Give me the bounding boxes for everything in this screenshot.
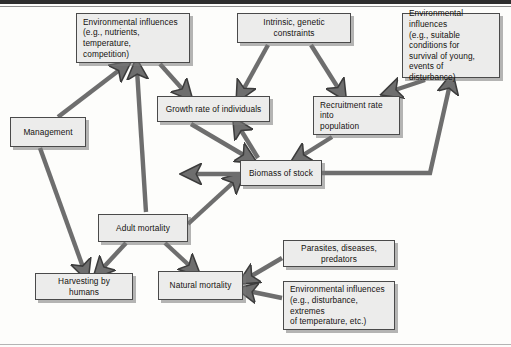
node-label: Natural mortality: [165, 280, 236, 291]
node-label: Intrinsic, genetic constraints: [244, 17, 344, 38]
node-biomass-of-stock[interactable]: Biomass of stock: [240, 160, 322, 186]
node-label: Adult mortality: [105, 223, 181, 234]
edge-adult-mortality-to-environmental-influences: [137, 70, 146, 212]
edge-recruitment-to-biomass: [300, 137, 332, 157]
fish-stock-flow-diagram: Environmental influences (e.g., nutrient…: [0, 0, 511, 347]
node-label: Environmental influences (e.g., disturba…: [290, 284, 388, 326]
node-environmental-influences-natural-mortality[interactable]: Environmental influences (e.g., disturba…: [283, 281, 395, 330]
edge-parasites-to-natural-mortality: [248, 258, 282, 278]
node-label: Harvesting by humans: [42, 276, 126, 297]
node-environmental-influences-growth[interactable]: Environmental influences (e.g., nutrient…: [76, 13, 190, 63]
node-label: Biomass of stock: [247, 168, 315, 179]
node-harvesting-by-humans[interactable]: Harvesting by humans: [35, 273, 133, 300]
node-label: Environmental influences (e.g., nutrient…: [83, 17, 183, 59]
node-label: Growth rate of individuals: [164, 104, 263, 115]
edge-intrinsic-constraints-to-recruitment: [311, 45, 340, 91]
node-environmental-influences-recruitment[interactable]: Environmental influences (e.g., suitable…: [402, 13, 500, 78]
node-growth-rate-of-individuals[interactable]: Growth rate of individuals: [157, 96, 270, 122]
edge-environmental-influences-to-growth-rate: [160, 64, 185, 92]
node-natural-mortality[interactable]: Natural mortality: [158, 271, 243, 300]
edge-adult-mortality-to-natural-mortality: [165, 243, 192, 268]
node-label: Management: [17, 127, 79, 138]
node-parasites-diseases-predators[interactable]: Parasites, diseases, predators: [283, 240, 395, 267]
node-label: Parasites, diseases, predators: [290, 243, 388, 264]
edge-adult-mortality-to-harvesting: [101, 243, 126, 270]
node-management[interactable]: Management: [10, 117, 86, 147]
node-label: Environmental influences (e.g., suitable…: [409, 8, 493, 82]
edge-intrinsic-constraints-to-growth-rate: [242, 45, 268, 92]
node-recruitment-rate-into-population[interactable]: Recruitment rate into population: [313, 96, 400, 135]
edge-management-to-environmental-influences: [58, 68, 122, 117]
node-label: Recruitment rate into population: [320, 100, 393, 132]
edge-environmental-influences-to-natural-mortality: [248, 291, 282, 298]
edge-adult-mortality-to-biomass: [188, 180, 236, 224]
edge-management-to-harvesting: [40, 148, 84, 270]
node-adult-mortality[interactable]: Adult mortality: [98, 214, 188, 242]
node-intrinsic-genetic-constraints[interactable]: Intrinsic, genetic constraints: [237, 13, 351, 43]
